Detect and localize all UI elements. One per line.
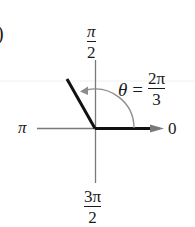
terminal-side (67, 79, 95, 129)
angle-label: θ = 2π 3 (118, 70, 165, 108)
angle-fraction: 2π 3 (148, 70, 165, 108)
fraction-bar (84, 206, 101, 207)
fraction-bar (87, 41, 96, 42)
top-denominator: 2 (87, 44, 96, 61)
bottom-numerator: 3π (84, 188, 101, 205)
label-3pi-over-2: 3π 2 (84, 188, 101, 226)
arrowhead-icon (150, 125, 164, 133)
angle-numerator: 2π (148, 70, 165, 87)
top-numerator: π (87, 23, 96, 40)
fraction-bar (148, 88, 165, 89)
bottom-denominator: 2 (88, 209, 97, 226)
label-pi-over-2: π 2 (87, 23, 96, 61)
label-zero: 0 (168, 120, 177, 137)
arc-arrowhead-icon (80, 87, 88, 96)
equals-sign: = (132, 81, 143, 98)
theta-symbol: θ (118, 81, 127, 98)
angle-denominator: 3 (152, 91, 161, 108)
label-pi: π (18, 119, 27, 136)
